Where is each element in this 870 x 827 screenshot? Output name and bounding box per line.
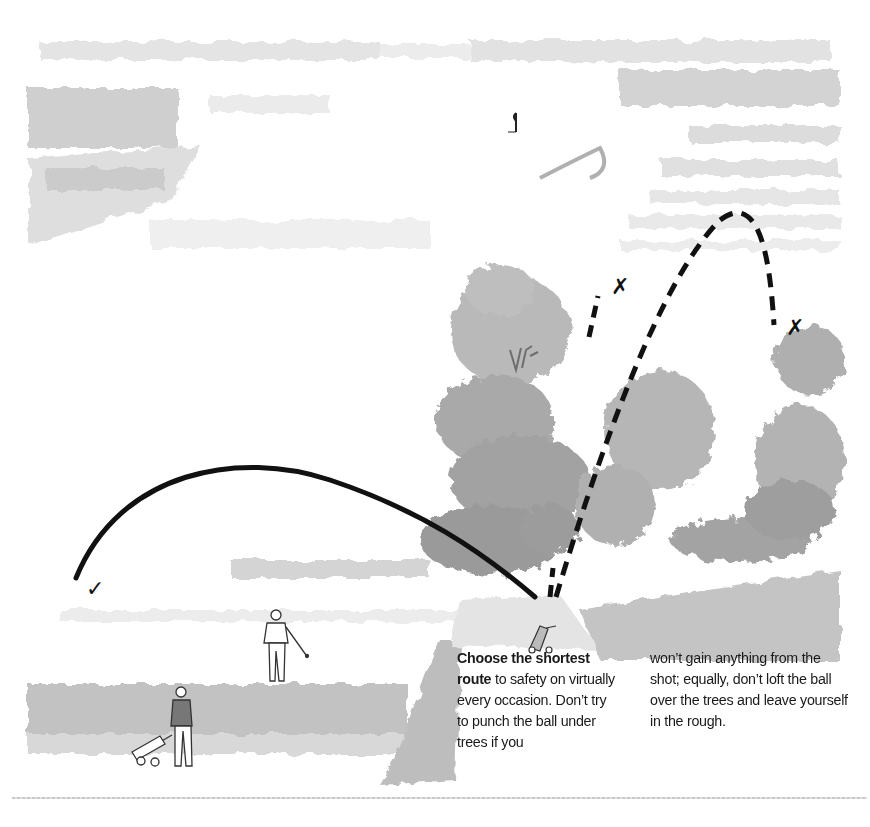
caption-column-2: won’t gain anything from the shot; equal…: [650, 647, 848, 731]
flag-icon: [508, 113, 516, 132]
page-divider: [12, 797, 867, 799]
caption-column-1: Choose the shortest route to safety on v…: [457, 647, 618, 752]
bunker: [540, 148, 604, 178]
check-mark-icon: ✓: [86, 576, 104, 601]
trees: [420, 265, 845, 575]
cross-mark-icon: ✗: [786, 315, 804, 340]
cross-mark-icon: ✗: [611, 274, 629, 299]
caption-text: won’t gain anything from the shot; equal…: [650, 649, 848, 729]
punch-shot-trajectory: [589, 296, 598, 337]
punch-shot-start: [550, 568, 553, 597]
